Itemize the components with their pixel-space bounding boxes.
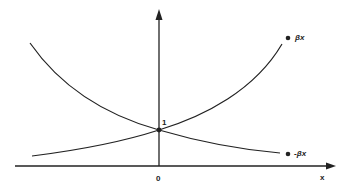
decay-end-dot <box>286 152 291 157</box>
growth-label: βx <box>294 33 305 42</box>
growth-end-dot <box>286 36 291 41</box>
y-axis-arrow-icon <box>156 9 163 20</box>
origin-label: 0 <box>156 174 161 183</box>
growth-curve <box>32 44 282 156</box>
intercept-point <box>157 128 162 133</box>
intercept-label: 1 <box>162 118 167 127</box>
decay-curve <box>30 43 280 153</box>
decay-label: -βx <box>294 149 307 158</box>
x-axis-label: x <box>320 173 325 182</box>
y-axis <box>156 9 163 166</box>
x-axis <box>15 163 336 170</box>
x-axis-arrow-icon <box>326 163 336 170</box>
exponential-diagram: 1 0 x βx -βx <box>0 0 348 185</box>
